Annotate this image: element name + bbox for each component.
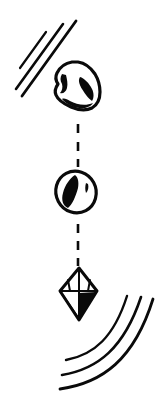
rock-outline	[55, 62, 100, 110]
illustration-svg	[0, 0, 156, 404]
illustration-canvas: Falling object transformation sequence	[0, 0, 156, 404]
rock-shape	[55, 62, 100, 110]
